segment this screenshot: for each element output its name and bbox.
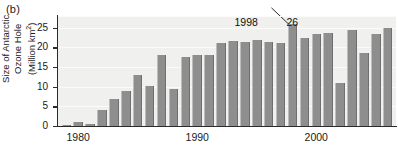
x-axis-tick-label: 1990 [172, 131, 222, 143]
gridline [58, 16, 396, 17]
bar [371, 34, 381, 126]
bar [216, 43, 226, 126]
bar [228, 41, 238, 126]
gridline [58, 67, 396, 68]
bar [323, 33, 333, 126]
gridline [58, 47, 396, 48]
bar [181, 57, 191, 126]
bar [109, 99, 119, 127]
plot-area [58, 16, 396, 126]
bar [312, 34, 322, 126]
gridline [58, 28, 396, 29]
bar [276, 43, 286, 126]
bar [288, 24, 298, 126]
y-axis-tick [53, 126, 58, 127]
bar [192, 55, 202, 127]
annotation-year-label: 1998 [234, 16, 257, 28]
bar [169, 89, 179, 126]
x-axis-tick-label: 2000 [291, 131, 341, 143]
x-axis-line [57, 126, 397, 127]
y-axis-tick-label: 10 [0, 81, 48, 92]
figure-panel-b: (b) Size of Antarctic Ozone Hole (Millio… [0, 0, 398, 154]
bar [145, 86, 155, 126]
bar [85, 124, 95, 126]
y-axis-tick-label: 5 [0, 100, 48, 111]
bar [335, 83, 345, 126]
x-axis-tick-label: 1980 [53, 131, 103, 143]
bar [240, 42, 250, 126]
bar [97, 110, 107, 126]
bar [252, 40, 262, 126]
bar [157, 55, 167, 126]
bar [347, 30, 357, 126]
y-axis-tick-label: 20 [0, 41, 48, 52]
bar [133, 75, 143, 126]
bar [62, 125, 72, 126]
y-axis-tick [53, 87, 58, 88]
bar [359, 53, 369, 126]
y-axis-tick [53, 106, 58, 107]
bar [300, 38, 310, 126]
y-axis-tick [53, 47, 58, 48]
y-axis-tick-label: 25 [0, 22, 48, 33]
bar [383, 28, 393, 126]
bar [264, 42, 274, 126]
bar [204, 55, 214, 126]
y-axis-tick [53, 28, 58, 29]
gridline [58, 87, 396, 88]
y-axis-tick-label: 0 [0, 120, 48, 131]
y-axis-tick [53, 67, 58, 68]
bar [121, 91, 131, 126]
bar [73, 122, 83, 126]
annotation-value-label: 26 [286, 16, 298, 28]
y-axis-tick-label: 15 [0, 61, 48, 72]
